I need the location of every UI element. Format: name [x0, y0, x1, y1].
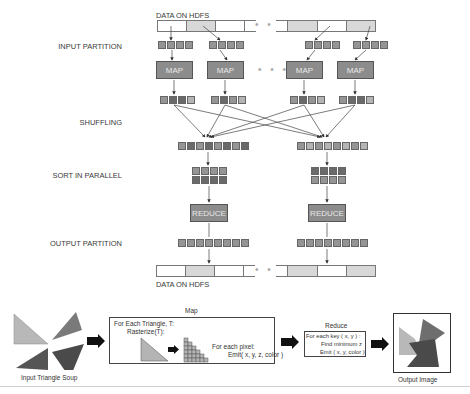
small-arrow-icon: [168, 345, 180, 354]
reduce-line2: Find minimum z: [321, 341, 362, 347]
map-pixel-line1: For each pixel:: [212, 343, 255, 350]
arrow-right-icon: [87, 334, 107, 348]
arrow-right-icon: [281, 335, 301, 349]
reduce-title: Reduce: [325, 322, 347, 329]
reduce-line1: For each key ( x, y ) :: [306, 333, 360, 339]
map-title: Map: [185, 307, 198, 314]
triangle-icon: [140, 337, 170, 362]
output-label: Output Image: [398, 376, 437, 383]
bottom-divider: [0, 386, 470, 387]
map-pixel-line2: Emit( x, y, z, color ): [228, 351, 283, 358]
rasterized-pixels-icon: [183, 337, 213, 363]
map-line1: For Each Triangle, T:: [114, 320, 174, 327]
map-line2: Rasterize(T):: [127, 328, 165, 335]
reduce-line3: Emit ( x, y, color ): [320, 349, 365, 355]
input-triangle-soup-icon: [8, 302, 88, 370]
output-image-icon: [393, 313, 451, 373]
input-label: Input Triangle Soup: [21, 374, 77, 381]
arrow-right-icon: [371, 337, 391, 351]
